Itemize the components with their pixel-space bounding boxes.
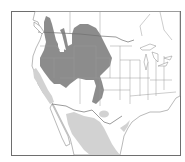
range-map [0,0,185,162]
secondary-range-spot [99,111,109,118]
